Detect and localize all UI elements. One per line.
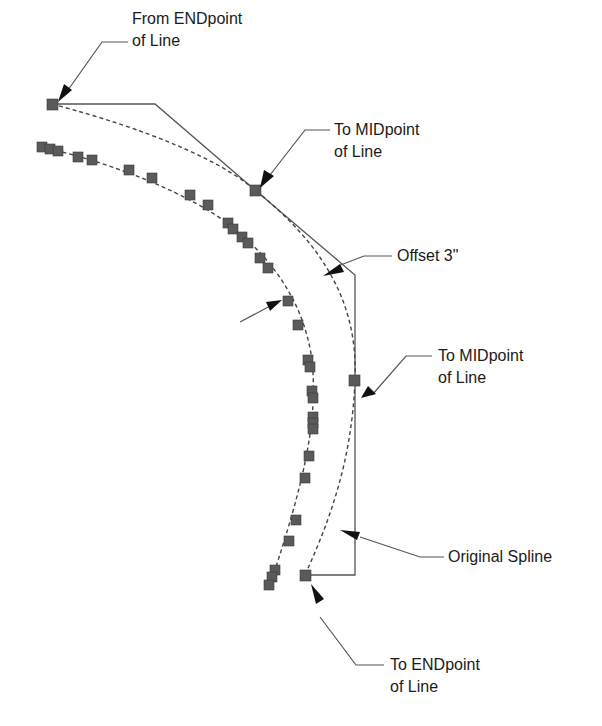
arrow-offset-icon — [323, 264, 344, 276]
label-line-1: To MIDpoint — [334, 119, 419, 141]
label-line-2: of Line — [390, 676, 480, 698]
offset-spline — [42, 147, 313, 585]
label-line-1: To ENDpoint — [390, 654, 480, 676]
label-line-1: To MIDpoint — [438, 345, 523, 367]
spline-grip-squares — [47, 99, 360, 581]
label-line-1: Offset 3" — [397, 245, 458, 267]
label-offset: Offset 3" — [397, 245, 458, 267]
arrow-to-midpoint-2-icon — [361, 386, 376, 398]
label-line-2: of Line — [132, 30, 242, 52]
arrow-offset-dim-icon — [266, 300, 282, 311]
offset-grip-squares — [37, 142, 318, 590]
label-original-spline: Original Spline — [448, 546, 552, 568]
label-to-endpoint: To ENDpoint of Line — [390, 654, 480, 698]
arrow-original-spline-icon — [340, 530, 360, 540]
label-to-midpoint-1: To MIDpoint of Line — [334, 119, 419, 163]
original-spline — [52, 104, 355, 575]
label-line-1: Original Spline — [448, 546, 552, 568]
label-line-2: of Line — [438, 367, 523, 389]
label-to-midpoint-2: To MIDpoint of Line — [438, 345, 523, 389]
label-line-1: From ENDpoint — [132, 8, 242, 30]
construction-polyline — [52, 104, 355, 575]
arrow-to-endpoint-icon — [311, 584, 324, 604]
label-from-endpoint: From ENDpoint of Line — [132, 8, 242, 52]
label-line-2: of Line — [334, 141, 419, 163]
arrowheads — [58, 84, 376, 604]
